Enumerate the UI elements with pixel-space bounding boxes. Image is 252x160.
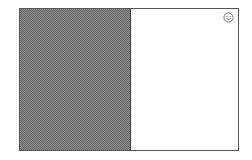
- window-frame: [19, 8, 239, 151]
- left-panel-dithered[interactable]: [20, 9, 131, 150]
- smiley-face-icon[interactable]: [223, 12, 234, 23]
- right-panel-blank[interactable]: [131, 9, 238, 150]
